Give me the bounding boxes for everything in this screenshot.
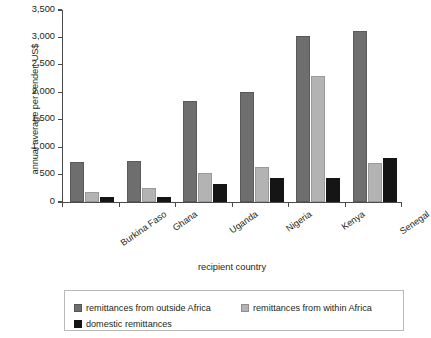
x-category-label: Senegal (398, 209, 431, 236)
y-tick-label: 1,000 (32, 141, 55, 151)
bar-group (238, 10, 284, 202)
bar (326, 178, 340, 202)
y-tick-mark (58, 9, 63, 10)
y-tick-mark (58, 37, 63, 38)
x-category-label: Ghana (171, 209, 199, 233)
black-swatch (74, 320, 82, 328)
y-tick-label: 2,000 (32, 86, 55, 96)
bar (311, 76, 325, 202)
x-category-label: Nigeria (284, 209, 313, 234)
plot-area: 05001,0001,5002,0002,5003,0003,500 Burki… (62, 10, 402, 202)
bar (157, 197, 171, 202)
bar (85, 192, 99, 202)
y-tick-label: 500 (39, 168, 55, 178)
y-tick-mark (58, 92, 63, 93)
y-tick-label: 2,500 (32, 58, 55, 68)
bar-group (181, 10, 227, 202)
bar-group (125, 10, 171, 202)
y-tick-label: 3,500 (32, 4, 55, 14)
y-tick-label: 3,000 (32, 31, 55, 41)
bar (353, 31, 367, 202)
bar (296, 36, 310, 202)
bar (383, 158, 397, 202)
x-tick-mark (232, 202, 233, 207)
bar (127, 161, 141, 202)
bar (270, 178, 284, 202)
bar (368, 163, 382, 202)
bar (240, 92, 254, 202)
light-gray-swatch (241, 304, 249, 312)
y-tick-mark (58, 147, 63, 148)
x-category-label: Burkina Faso (119, 209, 169, 248)
bar-group (294, 10, 340, 202)
x-tick-mark (288, 202, 289, 207)
legend-item-within-africa: remittances from within Africa (241, 297, 372, 315)
bar-group (351, 10, 397, 202)
bar (255, 167, 269, 202)
x-tick-mark (401, 202, 402, 207)
bar (183, 101, 197, 202)
dark-gray-swatch (74, 304, 82, 312)
y-tick-label: 0 (50, 196, 55, 206)
legend-label: remittances from outside Africa (86, 303, 211, 313)
y-tick-mark (58, 64, 63, 65)
y-tick-mark (58, 119, 63, 120)
x-category-label: Uganda (228, 209, 260, 235)
bar (100, 197, 114, 202)
chart-legend: remittances from outside Africa remittan… (64, 290, 404, 331)
y-tick-label: 1,500 (32, 113, 55, 123)
x-tick-mark (175, 202, 176, 207)
bar-groups (63, 10, 402, 202)
x-tick-mark (119, 202, 120, 207)
legend-label: domestic remittances (86, 319, 172, 329)
bar (198, 173, 212, 202)
legend-label: remittances from within Africa (253, 303, 372, 313)
bar (142, 188, 156, 202)
bar (213, 184, 227, 202)
y-tick-mark (58, 174, 63, 175)
x-tick-mark (62, 202, 63, 207)
legend-item-domestic: domestic remittances (74, 313, 172, 331)
x-axis-title: recipient country (62, 262, 402, 272)
bar-group (68, 10, 114, 202)
bar (70, 162, 84, 202)
x-category-label: Kenya (340, 209, 367, 232)
x-tick-mark (345, 202, 346, 207)
